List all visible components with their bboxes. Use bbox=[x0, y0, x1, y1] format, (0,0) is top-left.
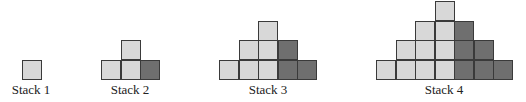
dark-square bbox=[454, 21, 474, 41]
light-square bbox=[239, 40, 259, 60]
light-square bbox=[258, 21, 278, 41]
light-square bbox=[435, 21, 455, 41]
stack-label: Stack 4 bbox=[425, 82, 464, 98]
light-square bbox=[435, 1, 455, 21]
light-square bbox=[121, 60, 141, 80]
light-square bbox=[435, 60, 455, 80]
light-square bbox=[258, 60, 278, 80]
light-square bbox=[376, 60, 396, 80]
dark-square bbox=[493, 60, 513, 80]
dark-square bbox=[454, 40, 474, 60]
light-square bbox=[396, 40, 416, 60]
light-square bbox=[22, 60, 42, 80]
light-square bbox=[415, 21, 435, 41]
stack-label: Stack 2 bbox=[111, 82, 150, 98]
light-square bbox=[396, 60, 416, 80]
dark-square bbox=[278, 60, 298, 80]
light-square bbox=[415, 40, 435, 60]
dark-square bbox=[278, 40, 298, 60]
stack-label: Stack 1 bbox=[12, 82, 51, 98]
light-square bbox=[415, 60, 435, 80]
dark-square bbox=[140, 60, 160, 80]
light-square bbox=[435, 40, 455, 60]
light-square bbox=[219, 60, 239, 80]
light-square bbox=[239, 60, 259, 80]
light-square bbox=[258, 40, 278, 60]
light-square bbox=[121, 40, 141, 60]
dark-square bbox=[454, 60, 474, 80]
stack-label: Stack 3 bbox=[249, 82, 288, 98]
dark-square bbox=[297, 60, 317, 80]
dark-square bbox=[474, 60, 494, 80]
dark-square bbox=[474, 40, 494, 60]
light-square bbox=[101, 60, 121, 80]
